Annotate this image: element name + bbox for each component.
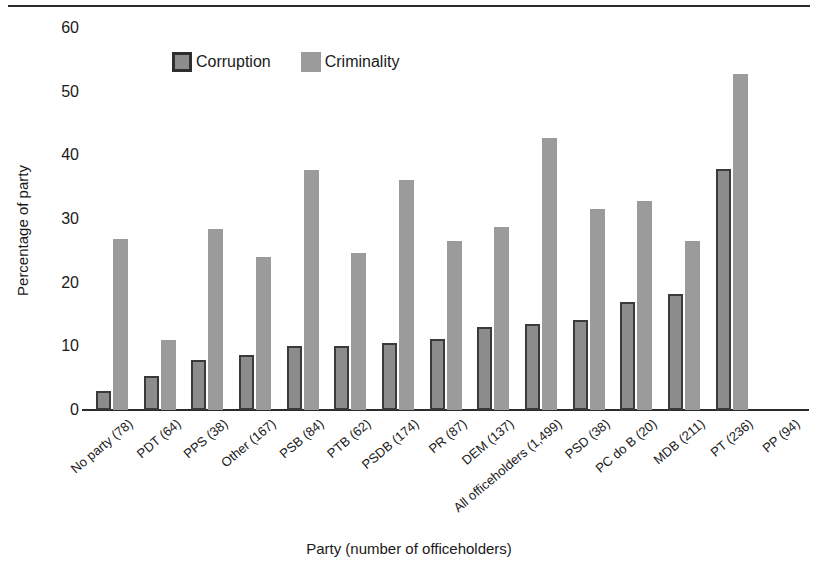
bar-criminality <box>208 229 223 410</box>
bar-criminality <box>542 138 557 410</box>
bar-chart-figure: Percentage of party 0102030405060 No par… <box>0 0 818 576</box>
bar-corruption <box>716 169 731 410</box>
legend-label-corruption: Corruption <box>196 53 271 71</box>
x-axis-tick-label: PR (87) <box>425 416 469 456</box>
x-axis-tick-label: PP (94) <box>760 416 803 456</box>
top-divider-rule <box>8 5 810 7</box>
legend-entry-corruption: Corruption <box>172 52 271 72</box>
legend-swatch-corruption-icon <box>172 52 192 72</box>
bar-corruption <box>239 355 254 410</box>
bar-corruption <box>334 346 349 410</box>
legend-label-criminality: Criminality <box>325 53 400 71</box>
bar-criminality <box>161 340 176 410</box>
y-axis-tick-label: 50 <box>61 83 79 101</box>
bar-corruption <box>287 346 302 410</box>
y-axis-tick-label: 30 <box>61 210 79 228</box>
bar-criminality <box>351 253 366 410</box>
bar-criminality <box>447 241 462 410</box>
x-axis-tick-label: PT (236) <box>707 416 755 460</box>
y-axis-title: Percentage of party <box>14 131 31 331</box>
bar-corruption <box>573 320 588 410</box>
bar-corruption <box>382 343 397 410</box>
chart-legend: Corruption Criminality <box>172 52 421 72</box>
bar-criminality <box>733 74 748 410</box>
bar-criminality <box>113 239 128 410</box>
x-axis-tick-label: PDT (64) <box>133 416 183 461</box>
x-axis-tick-label: MDB (211) <box>650 416 707 467</box>
x-axis-title: Party (number of officeholders) <box>0 540 818 557</box>
bar-criminality <box>399 180 414 410</box>
bar-criminality <box>590 209 605 410</box>
bar-corruption <box>430 339 445 410</box>
y-axis-tick-label: 40 <box>61 146 79 164</box>
bar-criminality <box>256 257 271 410</box>
plot-area: 0102030405060 No party (78)PDT (64)PPS (… <box>88 28 803 410</box>
bar-corruption <box>620 302 635 410</box>
y-axis-tick-label: 60 <box>61 19 79 37</box>
bar-criminality <box>685 241 700 410</box>
y-axis-tick-label: 0 <box>70 401 79 419</box>
bar-corruption <box>525 324 540 410</box>
bar-corruption <box>668 294 683 411</box>
x-axis-tick-label: No party (78) <box>68 416 136 476</box>
bar-corruption <box>96 391 111 410</box>
legend-swatch-criminality-icon <box>301 52 321 72</box>
x-axis-tick-label: PSB (84) <box>276 416 326 461</box>
y-axis-tick-label: 20 <box>61 274 79 292</box>
legend-entry-criminality: Criminality <box>301 52 400 72</box>
y-axis-tick-label: 10 <box>61 337 79 355</box>
bar-criminality <box>494 227 509 410</box>
bar-corruption <box>144 376 159 410</box>
bar-corruption <box>191 360 206 410</box>
bar-criminality <box>304 170 319 410</box>
bar-corruption <box>477 327 492 410</box>
bar-criminality <box>637 201 652 410</box>
